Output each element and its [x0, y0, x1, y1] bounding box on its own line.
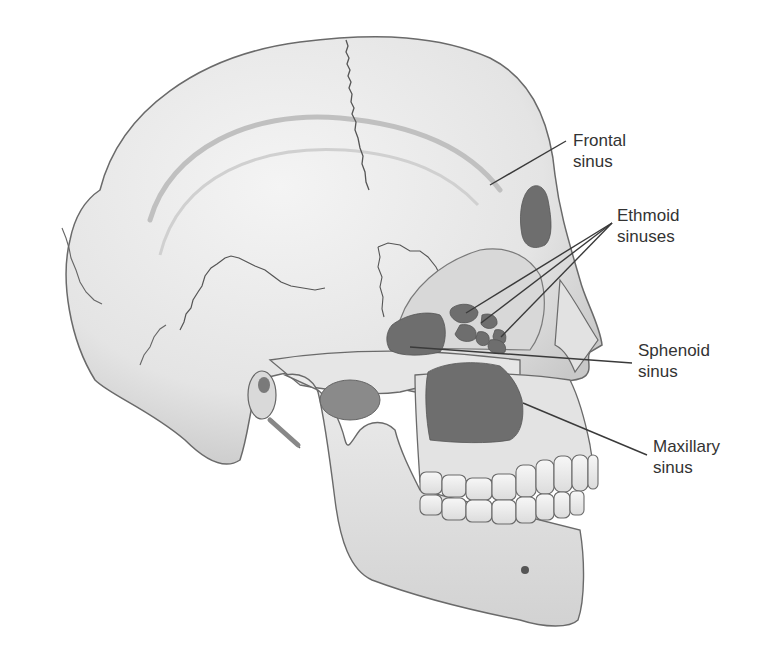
label-frontal-sinus: Frontal sinus: [573, 130, 626, 172]
label-ethmoid-line1: Ethmoid: [617, 205, 679, 226]
label-maxillary-sinus: Maxillary sinus: [653, 436, 720, 478]
label-maxillary-line2: sinus: [653, 457, 720, 478]
label-sphenoid-line2: sinus: [638, 361, 710, 382]
mental-foramen: [521, 566, 529, 574]
mandibular-notch: [320, 380, 380, 420]
skull-sinus-diagram: Frontal sinus Ethmoid sinuses Sphenoid s…: [0, 0, 777, 651]
skull-illustration: [0, 0, 777, 651]
label-frontal-line1: Frontal: [573, 130, 626, 151]
label-sphenoid-sinus: Sphenoid sinus: [638, 340, 710, 382]
label-sphenoid-line1: Sphenoid: [638, 340, 710, 361]
frontal-sinus: [520, 186, 551, 248]
label-ethmoid-line2: sinuses: [617, 226, 679, 247]
label-maxillary-line1: Maxillary: [653, 436, 720, 457]
label-frontal-line2: sinus: [573, 151, 626, 172]
label-ethmoid-sinuses: Ethmoid sinuses: [617, 205, 679, 247]
maxillary-sinus: [426, 363, 523, 443]
